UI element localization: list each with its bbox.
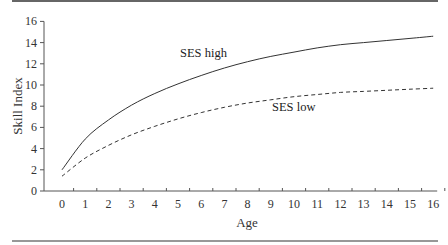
y-tick-label: 14 <box>25 36 37 50</box>
x-axis: 012345678910111213141516 <box>44 188 445 211</box>
x-tick-label: 14 <box>381 197 393 211</box>
y-tick-label: 8 <box>31 99 37 113</box>
x-tick-label: 5 <box>175 197 181 211</box>
x-tick-label: 8 <box>245 197 251 211</box>
x-axis-label: Age <box>236 215 258 230</box>
series-label-ses-low: SES low <box>272 100 315 114</box>
y-tick-label: 4 <box>31 142 37 156</box>
x-tick-label: 9 <box>268 197 274 211</box>
y-tick-label: 0 <box>31 184 37 198</box>
y-tick-label: 6 <box>31 120 37 134</box>
x-tick-label: 13 <box>358 197 370 211</box>
skill-index-chart: 0246810121416 012345678910111213141516 S… <box>0 0 448 245</box>
x-tick-label: 1 <box>82 197 88 211</box>
x-tick-label: 2 <box>105 197 111 211</box>
x-tick-label: 12 <box>334 197 346 211</box>
y-tick-label: 10 <box>25 78 37 92</box>
y-tick-label: 12 <box>25 57 37 71</box>
y-tick-label: 16 <box>25 14 37 28</box>
x-tick-label: 16 <box>427 197 439 211</box>
y-axis: 0246810121416 <box>25 14 44 198</box>
x-tick-label: 6 <box>198 197 204 211</box>
x-tick-label: 3 <box>129 197 135 211</box>
x-tick-label: 10 <box>288 197 300 211</box>
y-tick-label: 2 <box>31 163 37 177</box>
x-tick-label: 15 <box>404 197 416 211</box>
x-tick-label: 11 <box>311 197 323 211</box>
y-axis-label: Skill Index <box>10 77 25 135</box>
x-tick-label: 4 <box>152 197 158 211</box>
series-line-ses-low <box>62 88 433 176</box>
series-line-ses-high <box>62 36 433 170</box>
x-tick-label: 0 <box>59 197 65 211</box>
x-tick-label: 7 <box>221 197 227 211</box>
series-label-ses-high: SES high <box>180 46 228 60</box>
